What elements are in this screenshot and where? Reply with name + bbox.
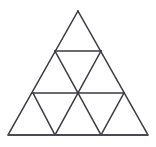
- triangle-grid-svg: [0, 0, 156, 147]
- triangle-figure: Equilateral triangle subdivided into nin…: [0, 0, 156, 147]
